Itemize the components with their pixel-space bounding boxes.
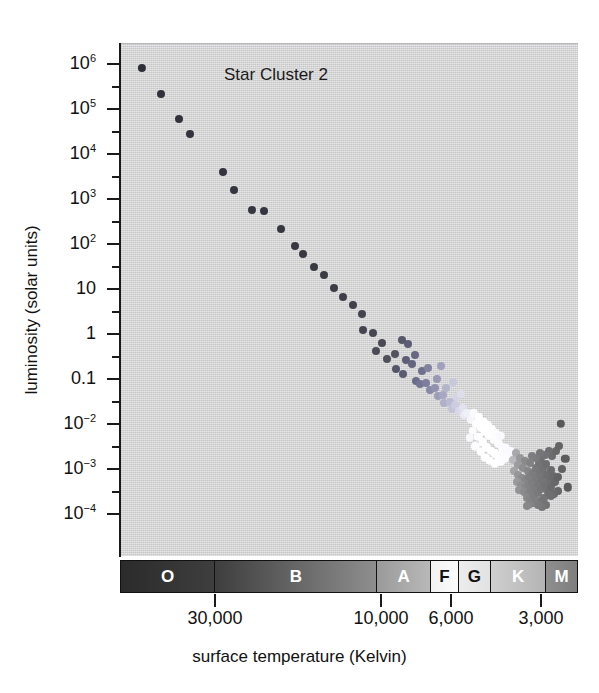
y-axis-tick-minor: [112, 221, 120, 223]
y-axis-tick-label: 104: [70, 142, 96, 164]
spectral-class-b: B: [214, 561, 376, 592]
spectral-class-a: A: [376, 561, 430, 592]
y-axis-tick-label: 103: [70, 187, 96, 209]
y-axis-tick-major: [107, 63, 120, 65]
y-axis-tick-major: [107, 468, 120, 470]
spectral-class-f: F: [430, 561, 457, 592]
y-axis-tick-major: [107, 198, 120, 200]
spectral-class-label: O: [161, 567, 174, 587]
y-axis-tick-major: [107, 243, 120, 245]
spectral-class-label: A: [398, 567, 410, 587]
x-axis-tick-label: 30,000: [187, 608, 242, 629]
y-axis-tick-label: 106: [70, 52, 96, 74]
y-axis-tick-major: [107, 153, 120, 155]
spectral-class-o: O: [121, 561, 214, 592]
y-axis-tick-minor: [112, 356, 120, 358]
y-axis-tick-major: [107, 378, 120, 380]
spectral-class-label: G: [468, 567, 481, 587]
y-axis-tick-label: 105: [70, 97, 96, 119]
y-axis-tick-minor: [112, 446, 120, 448]
spectral-class-label: B: [290, 567, 302, 587]
y-axis-tick-label: 1: [86, 323, 96, 344]
hr-diagram-figure: Star Cluster 2 1061051041031021010.110−2…: [0, 0, 599, 693]
spectral-class-label: K: [512, 567, 524, 587]
y-axis-tick-label: 10−3: [63, 457, 96, 479]
x-axis-tick-label: 3,000: [518, 608, 563, 629]
y-axis-tick-label: 0.1: [71, 368, 96, 389]
spectral-class-g: G: [458, 561, 491, 592]
y-axis-tick-minor: [112, 491, 120, 493]
y-axis-tick-major: [107, 333, 120, 335]
x-axis-tick-label: 6,000: [428, 608, 473, 629]
spectral-class-label: M: [554, 567, 568, 587]
y-axis-tick-major: [107, 513, 120, 515]
y-axis-tick-minor: [112, 131, 120, 133]
y-axis-tick-major: [107, 108, 120, 110]
y-axis-tick-major: [107, 288, 120, 290]
spectral-class-label: F: [439, 567, 449, 587]
x-axis-tick: [380, 594, 382, 607]
spectral-class-k: K: [490, 561, 545, 592]
y-axis-tick-minor: [112, 266, 120, 268]
y-axis-tick-minor: [112, 401, 120, 403]
y-axis-tick-label: 102: [70, 232, 96, 254]
x-axis-tick-label: 10,000: [353, 608, 408, 629]
x-axis-tick: [540, 594, 542, 607]
y-axis-tick-label: 10: [76, 278, 96, 299]
x-axis-tick: [450, 594, 452, 607]
y-axis-tick-major: [107, 423, 120, 425]
spectral-class-m: M: [545, 561, 577, 592]
y-axis-title: luminosity (solar units): [22, 160, 42, 460]
y-axis-tick-minor: [112, 86, 120, 88]
y-axis-tick-minor: [112, 176, 120, 178]
y-axis-tick-label: 10−4: [63, 502, 96, 524]
x-axis-title: surface temperature (Kelvin): [0, 647, 599, 667]
spectral-class-bar: OBAFGKM: [120, 560, 578, 593]
y-axis-tick-label: 10−2: [63, 412, 96, 434]
y-axis-tick-minor: [112, 311, 120, 313]
x-axis-tick: [214, 594, 216, 607]
